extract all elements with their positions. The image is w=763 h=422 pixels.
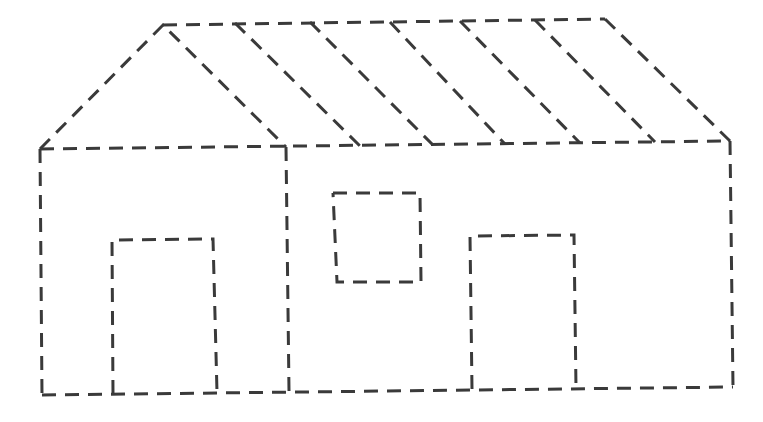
roof-right-slope (605, 19, 730, 141)
roof-slat (460, 21, 580, 143)
roof-slat (390, 22, 505, 144)
floor-line (42, 387, 733, 395)
window (333, 193, 421, 282)
roof-eave (40, 141, 730, 149)
left-wall (40, 149, 42, 395)
roof (40, 19, 730, 149)
walls (40, 141, 733, 395)
left-door (112, 239, 217, 394)
partition-wall (286, 147, 289, 391)
roof-slat (235, 23, 360, 146)
roof-slat (310, 22, 433, 145)
roof-gable (40, 25, 286, 149)
roof-slat (535, 20, 655, 142)
house-drawing (0, 0, 763, 422)
right-wall (730, 141, 733, 387)
right-door (470, 235, 576, 389)
